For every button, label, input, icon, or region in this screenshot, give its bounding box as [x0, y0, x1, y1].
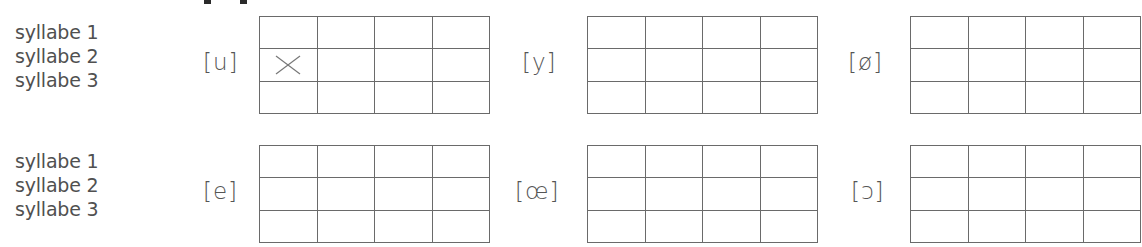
grid-cell[interactable]	[645, 210, 703, 242]
grid-cell[interactable]	[1026, 17, 1084, 49]
grid-cell[interactable]	[1026, 178, 1084, 210]
grid-cell[interactable]	[260, 81, 318, 113]
grid-cell[interactable]	[1083, 178, 1141, 210]
grid-cell[interactable]	[645, 17, 703, 49]
phoneme-label-oe: [œ]	[515, 178, 559, 204]
grid-cell[interactable]	[911, 49, 969, 81]
grid-cell[interactable]	[317, 49, 375, 81]
grid-cell-marked[interactable]	[260, 49, 318, 81]
grid-cell[interactable]	[703, 49, 761, 81]
answer-grid-e	[259, 145, 490, 243]
grid-cell[interactable]	[1026, 210, 1084, 242]
grid-cell[interactable]	[968, 17, 1026, 49]
grid-cell[interactable]	[317, 178, 375, 210]
grid-cell[interactable]	[1083, 210, 1141, 242]
syllable-labels-row-2: syllabe 1 syllabe 2 syllabe 3	[15, 149, 98, 221]
grid-cell[interactable]	[588, 49, 646, 81]
grid-cell[interactable]	[968, 81, 1026, 113]
grid-cell[interactable]	[760, 17, 818, 49]
grid-cell[interactable]	[375, 178, 433, 210]
grid-cell[interactable]	[760, 81, 818, 113]
grid-cell[interactable]	[375, 81, 433, 113]
grid-cell[interactable]	[432, 178, 490, 210]
grid-cell[interactable]	[911, 178, 969, 210]
grid-cell[interactable]	[375, 49, 433, 81]
grid-cell[interactable]	[1083, 49, 1141, 81]
answer-grid-y	[587, 16, 818, 114]
grid-cell[interactable]	[432, 146, 490, 178]
grid-cell[interactable]	[968, 178, 1026, 210]
phoneme-label-e: [e]	[203, 178, 238, 204]
grid-cell[interactable]	[1083, 17, 1141, 49]
grid-cell[interactable]	[317, 81, 375, 113]
grid-cell[interactable]	[703, 81, 761, 113]
grid-cell[interactable]	[317, 17, 375, 49]
grid-cell[interactable]	[645, 178, 703, 210]
phoneme-label-y: [y]	[522, 49, 557, 75]
cropped-top-bracket	[204, 0, 252, 4]
grid-cell[interactable]	[432, 81, 490, 113]
syllable-label: syllabe 1	[15, 20, 98, 44]
grid-cell[interactable]	[588, 81, 646, 113]
grid-cell[interactable]	[968, 210, 1026, 242]
answer-grid-oe	[587, 145, 818, 243]
grid-cell[interactable]	[911, 17, 969, 49]
cross-mark-icon	[274, 53, 302, 77]
grid-cell[interactable]	[432, 17, 490, 49]
grid-cell[interactable]	[432, 49, 490, 81]
grid-cell[interactable]	[1026, 49, 1084, 81]
grid-cell[interactable]	[1026, 146, 1084, 178]
grid-cell[interactable]	[645, 146, 703, 178]
grid-cell[interactable]	[260, 146, 318, 178]
grid-cell[interactable]	[1083, 81, 1141, 113]
phoneme-label-open-o: [ɔ]	[851, 178, 885, 204]
grid-cell[interactable]	[645, 49, 703, 81]
grid-cell[interactable]	[1026, 81, 1084, 113]
grid-cell[interactable]	[260, 178, 318, 210]
grid-cell[interactable]	[260, 210, 318, 242]
grid-cell[interactable]	[760, 178, 818, 210]
syllable-label: syllabe 2	[15, 173, 98, 197]
grid-cell[interactable]	[432, 210, 490, 242]
grid-cell[interactable]	[703, 178, 761, 210]
grid-cell[interactable]	[968, 146, 1026, 178]
grid-cell[interactable]	[375, 146, 433, 178]
grid-cell[interactable]	[911, 81, 969, 113]
syllable-labels-row-1: syllabe 1 syllabe 2 syllabe 3	[15, 20, 98, 92]
phoneme-label-o-slash: [ø]	[848, 49, 883, 75]
grid-cell[interactable]	[260, 17, 318, 49]
syllable-label: syllabe 3	[15, 197, 98, 221]
grid-cell[interactable]	[911, 210, 969, 242]
answer-grid-open-o	[910, 145, 1141, 243]
phoneme-label-u: [u]	[203, 49, 239, 75]
answer-grid-u	[259, 16, 490, 114]
grid-cell[interactable]	[968, 49, 1026, 81]
grid-cell[interactable]	[760, 49, 818, 81]
grid-cell[interactable]	[375, 17, 433, 49]
grid-cell[interactable]	[588, 146, 646, 178]
grid-cell[interactable]	[317, 146, 375, 178]
grid-cell[interactable]	[588, 17, 646, 49]
syllable-label: syllabe 3	[15, 68, 98, 92]
grid-cell[interactable]	[703, 146, 761, 178]
syllable-label: syllabe 1	[15, 149, 98, 173]
grid-cell[interactable]	[760, 210, 818, 242]
grid-cell[interactable]	[588, 178, 646, 210]
grid-cell[interactable]	[645, 81, 703, 113]
grid-cell[interactable]	[703, 17, 761, 49]
grid-cell[interactable]	[375, 210, 433, 242]
grid-cell[interactable]	[1083, 146, 1141, 178]
grid-cell[interactable]	[760, 146, 818, 178]
grid-cell[interactable]	[911, 146, 969, 178]
answer-grid-o-slash	[910, 16, 1141, 114]
grid-cell[interactable]	[317, 210, 375, 242]
grid-cell[interactable]	[588, 210, 646, 242]
grid-cell[interactable]	[703, 210, 761, 242]
syllable-label: syllabe 2	[15, 44, 98, 68]
